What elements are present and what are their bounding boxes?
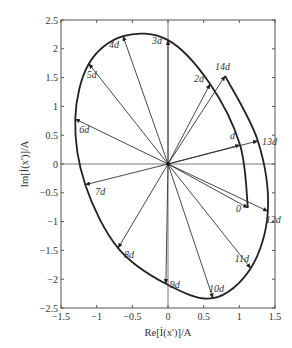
phasor-arrow [168,141,258,164]
phasor-arrow [123,36,168,164]
phasor-label: 6d [79,124,90,135]
x-tick-label: 1 [237,311,242,322]
y-tick-label: 1 [53,101,58,112]
y-tick-label: −1.5 [40,245,58,256]
y-tick-label: 1.5 [46,72,59,83]
phasor-label: 8d [124,249,135,260]
phasor-arrow [118,164,168,248]
phasor-arrows: 0d2d3d4d5d6d7d8d9d10d11d12d13d14d [75,35,282,298]
x-tick-label: 1.5 [269,311,282,322]
phasor-label: 7d [95,186,106,197]
origin-point [166,162,170,166]
y-tick-label: −2.5 [40,303,58,314]
phasor-label: 14d [215,61,231,72]
y-tick-label: 2 [53,43,58,54]
phasor-label: 0 [236,203,241,214]
phasor-label: 12d [266,214,282,225]
y-tick-label: 0.5 [46,130,59,141]
y-axis-title: Im[İ(x')]/A [19,140,31,187]
y-tick-label: −2 [47,274,58,285]
phasor-label: 9d [170,279,181,290]
phasor-arrow [85,164,168,185]
y-tick-label: −1 [47,216,58,227]
x-tick-label: 0.5 [197,311,210,322]
x-tick-label: 0 [166,311,171,322]
x-tick-label: −0.5 [123,311,141,322]
y-tick-label: −0.5 [40,187,58,198]
phasor-label: 11d [235,253,250,264]
phasor-label: 4d [109,39,120,50]
phasor-label: 2d [194,73,205,84]
y-tick-label: 2.5 [46,15,59,26]
y-tick-label: 0 [53,159,58,170]
phasor-arrow [168,164,268,211]
phasor-arrow [168,164,248,208]
phasor-label: 3d [151,35,163,46]
phasor-locus-chart: −1.5−1−0.500.511.5−2.5−2−1.5−1−0.500.511… [0,0,292,348]
phasor-arrow [89,64,168,164]
x-axis-title: Re[İ(x')]/A [145,327,192,339]
phasor-label: 13d [262,136,278,147]
phasor-arrow [168,84,210,164]
phasor-label: 5d [87,69,98,80]
phasor-label: 10d [209,283,225,294]
x-tick-label: −1 [91,311,102,322]
